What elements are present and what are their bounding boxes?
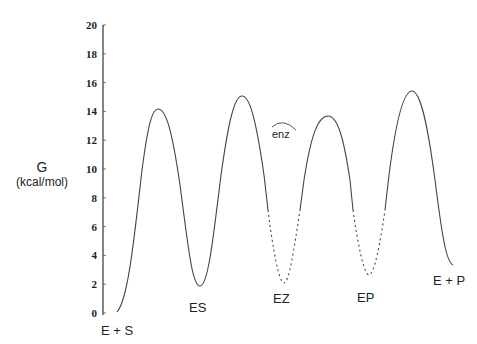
- enz-label: enz: [272, 128, 290, 140]
- energy-diagram: 0 2 4 6 8 10 12 14 16 18 20 G (kcal/mol)…: [0, 0, 477, 344]
- state-label-es: ES: [189, 300, 207, 315]
- curve-segment-dashed-ez: [268, 210, 300, 283]
- energy-curve: [117, 91, 453, 312]
- curve-segment-dashed-ep: [353, 210, 385, 275]
- tick-label-4: 4: [92, 249, 98, 261]
- y-tick-labels: 0 2 4 6 8 10 12 14 16 18 20: [86, 19, 98, 319]
- tick-label-18: 18: [86, 48, 98, 60]
- curve-segment-solid-1: [117, 96, 268, 312]
- state-label-ez: EZ: [273, 291, 290, 306]
- tick-label-12: 12: [86, 134, 98, 146]
- curve-segment-solid-3: [385, 91, 453, 265]
- tick-label-20: 20: [86, 19, 98, 31]
- tick-label-6: 6: [92, 221, 98, 233]
- y-axis-title-units: (kcal/mol): [16, 175, 68, 189]
- tick-label-2: 2: [92, 278, 98, 290]
- tick-label-16: 16: [86, 77, 98, 89]
- curve-segment-solid-2: [300, 116, 353, 210]
- state-label-e-plus-s: E + S: [101, 323, 133, 338]
- y-axis-title-symbol: G: [37, 159, 48, 175]
- tick-label-10: 10: [86, 163, 98, 175]
- tick-label-14: 14: [86, 105, 98, 117]
- tick-label-8: 8: [92, 192, 98, 204]
- tick-label-0: 0: [92, 307, 98, 319]
- state-label-ep: EP: [357, 290, 374, 305]
- state-label-e-plus-p: E + P: [433, 273, 465, 288]
